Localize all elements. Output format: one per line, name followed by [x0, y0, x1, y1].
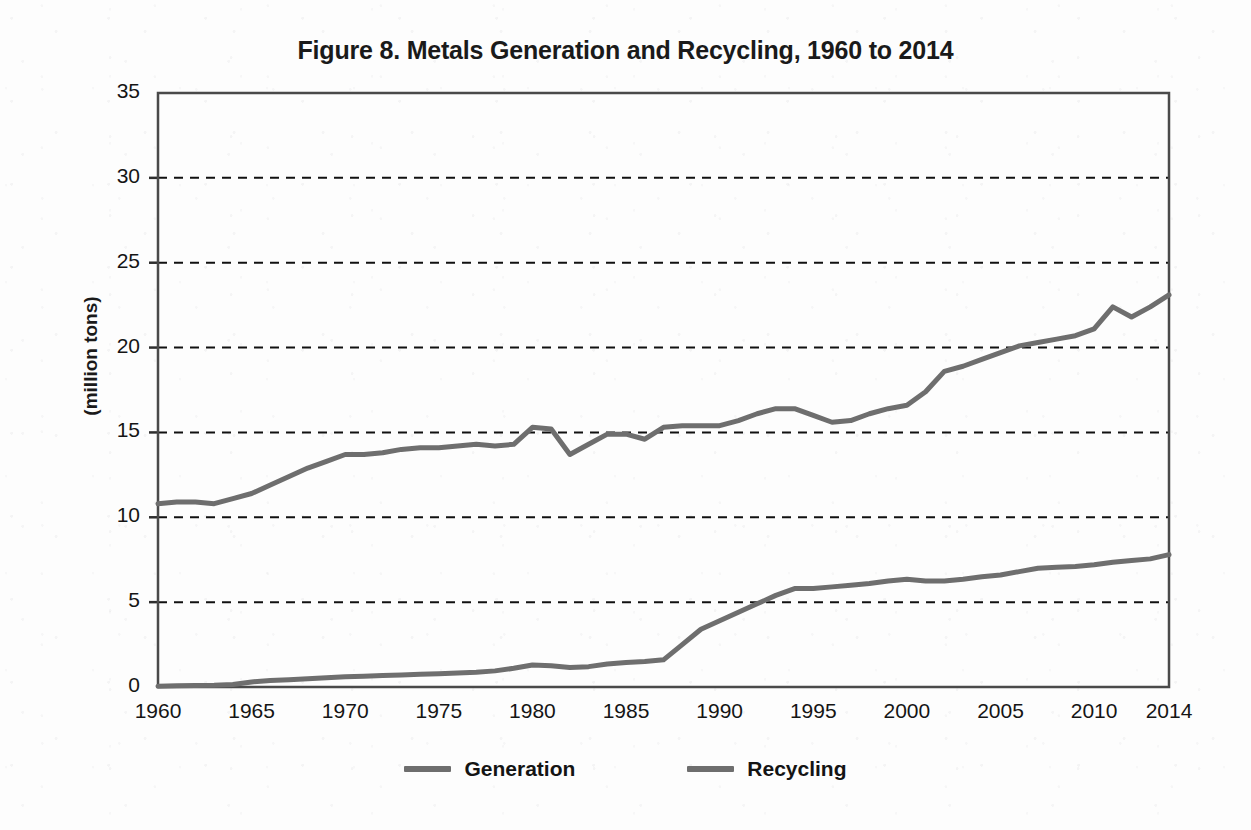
x-axis-tick-label: 1975 [394, 699, 484, 723]
y-axis-tick-label: 30 [80, 164, 140, 188]
y-axis-tick-label: 25 [80, 249, 140, 273]
x-axis-tick-label: 1970 [300, 699, 390, 723]
x-axis-tick-label: 1980 [487, 699, 577, 723]
y-axis-tick-label: 10 [80, 503, 140, 527]
y-axis-tick-label: 5 [80, 588, 140, 612]
x-axis-tick-label: 1985 [581, 699, 671, 723]
legend-label: Generation [464, 757, 575, 781]
legend-item: Generation [404, 757, 575, 781]
series-line-recycling [158, 555, 1169, 687]
y-axis-tick-label: 20 [80, 334, 140, 358]
gridlines [149, 178, 1169, 602]
x-axis-tick-label: 1965 [207, 699, 297, 723]
x-axis-tick-label: 1960 [113, 699, 203, 723]
series-line-generation [158, 295, 1169, 504]
y-axis-tick-label: 35 [80, 79, 140, 103]
legend-line-swatch-icon [404, 766, 451, 772]
plot-area-border [158, 93, 1169, 687]
legend-item: Recycling [687, 757, 846, 781]
chart-legend: GenerationRecycling [0, 757, 1251, 781]
x-axis-tick-label: 1995 [768, 699, 858, 723]
legend-label: Recycling [747, 757, 846, 781]
figure-page: Figure 8. Metals Generation and Recyclin… [0, 0, 1251, 830]
x-axis-tick-label: 2005 [956, 699, 1046, 723]
legend-line-swatch-icon [687, 766, 734, 772]
x-axis-tick-label: 2014 [1124, 699, 1214, 723]
x-axis-tick-label: 1990 [675, 699, 765, 723]
y-axis-tick-label: 0 [80, 673, 140, 697]
y-axis-tick-label: 15 [80, 418, 140, 442]
x-axis-tick-label: 2000 [862, 699, 952, 723]
data-series-layer [158, 295, 1169, 686]
